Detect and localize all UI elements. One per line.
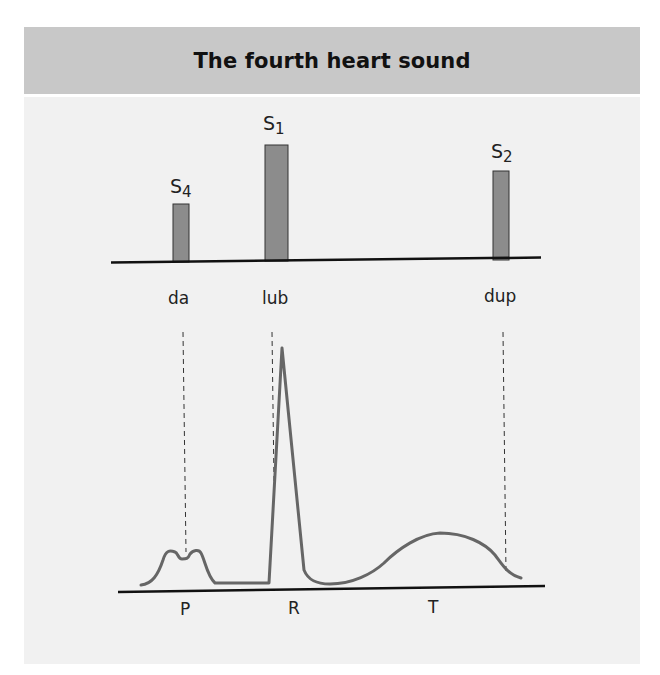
wave-label-t: T (427, 597, 439, 617)
wave-label-p: P (180, 599, 190, 619)
label-s2: S2 (491, 140, 513, 166)
bar-s2 (493, 171, 509, 260)
dash-s2-t (503, 332, 506, 572)
label-s4: S4 (170, 175, 192, 201)
dash-s1-r (272, 332, 274, 482)
heart-sound-diagram: S4 S1 S2 da lub dup P R T (0, 0, 660, 675)
syllable-lub: lub (262, 288, 288, 308)
syllable-dup: dup (484, 286, 516, 306)
syllable-da: da (168, 288, 189, 308)
ecg-waveform (141, 348, 521, 585)
sound-bars (173, 145, 509, 262)
bar-s1 (265, 145, 288, 261)
ecg-baseline (118, 586, 545, 592)
wave-label-r: R (288, 598, 300, 618)
bar-s4 (173, 204, 189, 262)
label-s1: S1 (263, 112, 285, 138)
dash-s4-p (183, 332, 186, 552)
